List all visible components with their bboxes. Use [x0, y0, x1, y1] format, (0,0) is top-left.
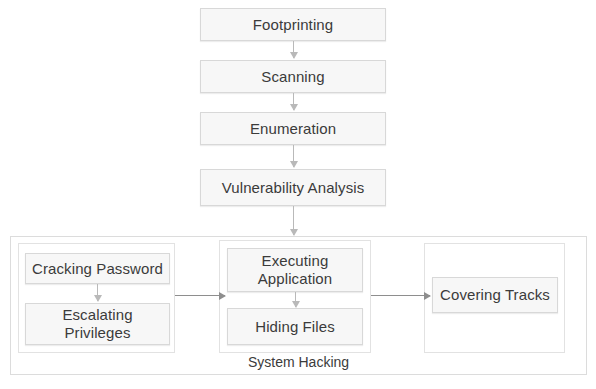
system-hacking-label: System Hacking: [11, 354, 586, 370]
arrow-scanning-to-enumeration: [293, 93, 294, 110]
node-covering-tracks[interactable]: Covering Tracks: [432, 277, 558, 313]
flowchart-canvas: Footprinting Scanning Enumeration Vulner…: [0, 0, 596, 389]
node-vulnerability-analysis[interactable]: Vulnerability Analysis: [200, 169, 386, 206]
arrow-footprinting-to-scanning: [293, 41, 294, 58]
arrow-executing-application-to-hiding-files: [295, 292, 296, 307]
node-scanning[interactable]: Scanning: [200, 60, 386, 93]
node-escalating-privileges[interactable]: Escalating Privileges: [25, 303, 170, 345]
arrow-maintaining-access-to-covering-tracks: [371, 295, 430, 296]
node-enumeration[interactable]: Enumeration: [200, 112, 386, 145]
arrow-cracking-password-to-escalating-privileges: [97, 284, 98, 301]
node-executing-application[interactable]: Executing Application: [227, 248, 363, 292]
node-cracking-password[interactable]: Cracking Password: [25, 253, 170, 284]
node-footprinting[interactable]: Footprinting: [200, 8, 386, 41]
node-hiding-files[interactable]: Hiding Files: [227, 308, 363, 345]
arrow-gaining-access-to-maintaining-access: [175, 295, 225, 296]
arrow-enumeration-to-vulnerability-analysis: [293, 145, 294, 167]
arrow-vulnerability-analysis-to-system-hacking: [293, 206, 294, 235]
